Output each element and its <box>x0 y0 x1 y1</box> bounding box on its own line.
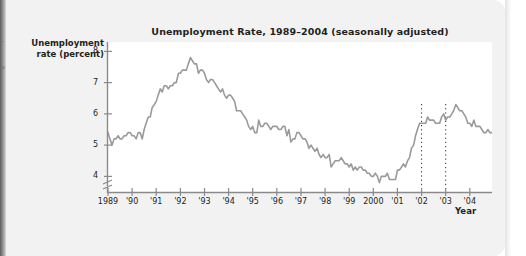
figure-card-shadow <box>505 0 511 256</box>
margin-mark-letter: a <box>1 64 5 70</box>
plot-series-svg <box>108 42 492 192</box>
x-tick-label-04: '04 <box>453 197 487 206</box>
y-tick-label-7: 7 <box>80 78 98 87</box>
margin-mark-dash: – <box>1 38 4 44</box>
y-tick-label-6: 6 <box>80 109 98 118</box>
plot-panel <box>108 42 492 192</box>
y-tick-label-5: 5 <box>80 140 98 149</box>
chart-title: Unemployment Rate, 1989–2004 (seasonally… <box>108 26 492 37</box>
y-tick-label-4: 4 <box>80 171 98 180</box>
unemployment-rate-line <box>108 58 492 183</box>
y-tick-label-8: 8 <box>80 46 98 55</box>
x-axis-label: Year <box>455 206 476 216</box>
